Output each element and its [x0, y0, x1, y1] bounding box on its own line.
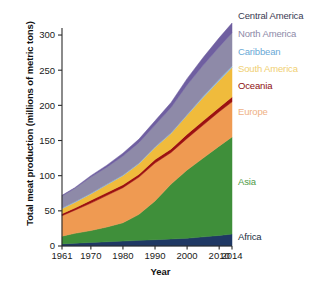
legend-label-asia[interactable]: Asia	[238, 176, 256, 187]
x-tick-label: 1990	[144, 250, 165, 261]
legend-label-africa[interactable]: Africa	[238, 231, 261, 242]
y-tick-label: 50	[44, 205, 55, 216]
x-tick-label: 1980	[112, 250, 133, 261]
y-tick-label: 250	[39, 65, 55, 76]
y-tick-label: 200	[39, 100, 55, 111]
x-tick-label: 2000	[177, 250, 198, 261]
stacked-areas	[62, 23, 232, 246]
y-tick-label: 150	[39, 135, 55, 146]
meat-production-area-chart: Total meat production (millions of metri…	[0, 0, 321, 285]
x-tick-label: 1961	[51, 250, 72, 261]
x-tick-marks: 1961197019801990200020102014	[51, 246, 242, 261]
y-tick-label: 100	[39, 170, 55, 181]
x-tick-label: 1970	[80, 250, 101, 261]
y-tick-label: 300	[39, 29, 55, 40]
x-tick-label: 2014	[221, 250, 242, 261]
legend-label-caribbean[interactable]: Caribbean	[238, 46, 281, 57]
legend-label-north-america[interactable]: North America	[238, 28, 296, 39]
legend-label-south-america[interactable]: South America	[238, 63, 298, 74]
legend-label-oceania[interactable]: Oceania	[238, 80, 272, 91]
y-tick-marks: 050100150200250300	[39, 29, 62, 251]
legend-label-europe[interactable]: Europe	[238, 106, 268, 117]
plot-area: 050100150200250300 196119701980199020002…	[0, 0, 321, 285]
legend-label-central-america[interactable]: Central America	[238, 10, 303, 21]
